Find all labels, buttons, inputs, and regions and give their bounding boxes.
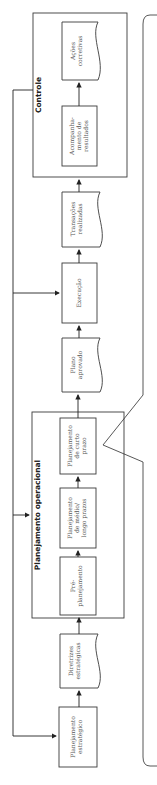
svg-text:Diretrizesestratégicas: Diretrizesestratégicas [67,642,82,679]
callout-bubble [103,15,157,766]
diagram-canvas: Controle Planejamento operacional Açõesc… [0,0,157,785]
svg-text:Planejamentode médio/longo pra: Planejamentode médio/longo prazos [66,497,88,539]
svg-text:Acompanha-mento deresultados: Acompanha-mento deresultados [68,117,89,156]
svg-text:Planejamentoestratégico: Planejamentoestratégico [69,716,84,758]
group-operacional-label: Planejamento operacional [33,460,42,570]
svg-text:Transaçõesrealizadas: Transaçõesrealizadas [69,202,83,237]
group-controle-label: Controle [34,77,43,113]
svg-text:Execução: Execução [75,278,83,307]
feedback-line [13,90,59,736]
